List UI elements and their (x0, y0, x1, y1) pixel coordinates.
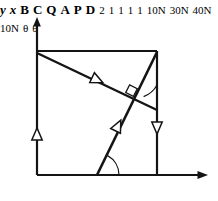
angle-arc-q-icon (144, 85, 157, 97)
member-pc (97, 52, 157, 175)
figure-canvas: y x B C Q A P D 2 1 1 1 1 10N 30N 40N 10… (0, 0, 218, 201)
figure-geometry (0, 0, 218, 201)
x-axis-arrowhead (198, 171, 209, 179)
y-axis-arrowhead (33, 17, 41, 27)
force-arrow-ab-icon (32, 128, 42, 140)
angle-arc-p-icon (108, 156, 119, 175)
force-arrow-qd-icon (152, 122, 162, 134)
